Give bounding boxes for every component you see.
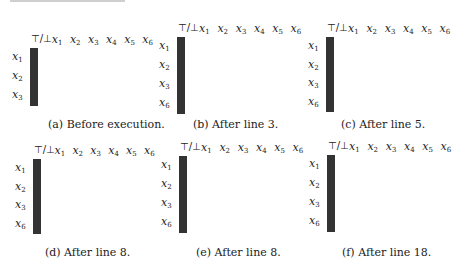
column-header: x2 — [364, 140, 382, 154]
grid-row — [327, 56, 334, 75]
grid-row — [180, 157, 187, 176]
cell-empty — [37, 87, 38, 106]
bit-grid — [326, 37, 334, 112]
cell-empty — [184, 76, 185, 95]
cell-empty — [184, 95, 185, 114]
cell-filled — [333, 93, 334, 112]
column-header: x3 — [234, 141, 252, 155]
cell-filled — [37, 49, 38, 68]
row-label: x2 — [12, 69, 23, 83]
cell-empty — [186, 195, 187, 214]
column-header: x1 — [195, 22, 213, 36]
grid-row — [178, 38, 185, 57]
cell-filled — [184, 57, 185, 76]
grid-row — [31, 68, 38, 87]
bit-grid — [327, 155, 335, 232]
bit-grid — [179, 156, 187, 233]
grid-row — [34, 178, 41, 197]
column-header: x3 — [84, 33, 102, 47]
cell-empty — [334, 194, 335, 213]
cell-filled — [333, 38, 334, 57]
column-header: x6 — [289, 141, 307, 155]
grid-row — [178, 95, 185, 114]
row-label: x1 — [15, 161, 26, 175]
column-header: x6 — [436, 22, 454, 36]
panel-caption: (b) After line 3. — [193, 118, 278, 131]
row-label: x3 — [15, 198, 26, 212]
column-header: x4 — [250, 22, 268, 36]
column-header: x2 — [214, 22, 232, 36]
grid-row — [327, 75, 334, 94]
row-label: x3 — [309, 195, 320, 209]
grid-row — [328, 194, 335, 213]
top-edge-bar — [10, 0, 125, 2]
cell-empty — [186, 157, 187, 176]
row-label: x6 — [308, 95, 319, 109]
grid-row — [178, 76, 185, 95]
cell-filled — [184, 38, 185, 57]
row-label: x2 — [309, 176, 320, 190]
row-label: x1 — [308, 39, 319, 53]
column-header: x5 — [121, 33, 139, 47]
row-label: x3 — [12, 88, 23, 102]
cell-empty — [333, 75, 334, 94]
row-label: x3 — [308, 76, 319, 90]
grid-row — [34, 197, 41, 216]
cell-filled — [333, 56, 334, 75]
row-label: x3 — [161, 196, 172, 210]
grid-row — [31, 49, 38, 68]
column-header: x2 — [66, 33, 84, 47]
panel-caption: (d) After line 8. — [45, 246, 130, 259]
column-header: x6 — [287, 22, 305, 36]
column-header: x4 — [252, 141, 270, 155]
cell-filled — [40, 215, 41, 234]
grid-row — [34, 215, 41, 234]
cell-filled — [40, 178, 41, 197]
column-header: x5 — [271, 141, 289, 155]
cell-empty — [40, 197, 41, 216]
column-header: x1 — [51, 144, 69, 158]
column-header: x2 — [69, 144, 87, 158]
panel-caption: (e) After line 8. — [196, 246, 281, 259]
row-label: x6 — [159, 96, 170, 110]
column-header: x4 — [399, 22, 417, 36]
column-header: x3 — [232, 22, 250, 36]
row-label: x1 — [309, 157, 320, 171]
column-header: x1 — [48, 33, 66, 47]
cell-empty — [186, 176, 187, 195]
grid-row — [327, 38, 334, 57]
panel-caption: (c) After line 5. — [341, 118, 425, 131]
grid-row — [180, 176, 187, 195]
row-label: x2 — [15, 180, 26, 194]
grid-row — [34, 160, 41, 179]
column-header: x3 — [381, 22, 399, 36]
grid-row — [178, 57, 185, 76]
row-label: x2 — [161, 177, 172, 191]
column-header: x5 — [419, 140, 437, 154]
grid-row — [180, 195, 187, 214]
panel-caption: (a) Before execution. — [48, 118, 165, 131]
bit-grid — [33, 159, 41, 234]
row-label: x6 — [309, 214, 320, 228]
column-header: x4 — [105, 144, 123, 158]
column-header: x6 — [140, 144, 158, 158]
cell-filled — [186, 214, 187, 233]
grid-row — [327, 93, 334, 112]
column-header: x5 — [418, 22, 436, 36]
row-label: x1 — [159, 39, 170, 53]
column-header: x3 — [382, 140, 400, 154]
cell-filled — [37, 68, 38, 87]
row-label: x6 — [161, 215, 172, 229]
row-label: x6 — [15, 217, 26, 231]
bit-grid — [30, 48, 38, 106]
cell-empty — [334, 175, 335, 194]
column-header: x3 — [87, 144, 105, 158]
grid-row — [328, 156, 335, 175]
panel-caption: (f) After line 18. — [342, 246, 431, 259]
grid-row — [31, 87, 38, 106]
row-label: x1 — [161, 158, 172, 172]
grid-row — [328, 213, 335, 232]
grid-row — [180, 214, 187, 233]
column-header: x2 — [216, 141, 234, 155]
row-label: x2 — [308, 58, 319, 72]
